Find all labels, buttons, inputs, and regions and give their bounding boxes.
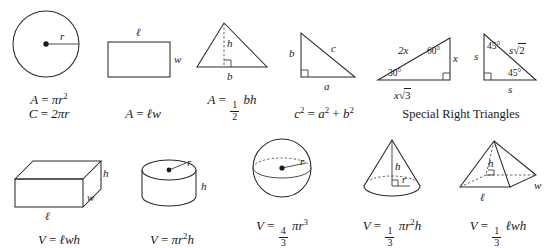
figure-cell-cone: h r V = 13 πr2h <box>338 128 446 248</box>
circle-radius-label: r <box>60 30 65 42</box>
figure-cell-rectangular-prism: h w ℓ V = ℓwh <box>0 128 118 248</box>
cone-fraction-denominator: 3 <box>385 237 394 248</box>
prism-volume-eq: = <box>49 232 56 247</box>
circle-area-eq: = <box>41 92 48 107</box>
prism-volume-formula: V = ℓwh <box>38 233 80 248</box>
rectangle-area-formula: A = ℓw <box>125 107 161 122</box>
pyramid-volume-formula: V = 13 ℓwh <box>470 219 526 248</box>
pyramid-volume-rhs: ℓwh <box>506 218 527 233</box>
sphere-fraction-numerator: 4 <box>279 226 288 236</box>
triangle-height-label: h <box>227 37 233 49</box>
cylinder-volume-lhs: V <box>150 232 158 247</box>
prism-volume-lhs: V <box>38 232 46 247</box>
cylinder-volume-eq: = <box>161 232 168 247</box>
triangle-area-formula: A = 12 bh <box>208 93 257 122</box>
right-triangle-leg-b-label: b <box>289 47 295 59</box>
sphere-diagram: r <box>234 130 330 210</box>
cylinder-volume-rhs: πr <box>172 232 184 247</box>
cylinder-volume-formula: V = πr2h <box>150 232 194 248</box>
triangle-30-60-90-angle-30-label: 30° <box>388 68 402 78</box>
circle-area-exponent: 2 <box>63 91 67 101</box>
prism-volume-rhs: ℓwh <box>59 232 80 247</box>
triangle-fraction-denominator: 2 <box>230 111 239 122</box>
cone-fraction-numerator: 1 <box>385 226 394 236</box>
triangle-30-60-90-base-radicand: 3 <box>404 88 412 101</box>
cone-volume-rhs: πr <box>399 218 411 233</box>
figure-cell-sphere: r V = 43 πr3 <box>226 128 338 248</box>
cone-volume-formula: V = 13 πr2h <box>363 218 421 248</box>
triangle-30-60-90-base-label: x√3 <box>394 89 411 101</box>
geometry-formula-sheet: r A = πr2 C = 2πr ℓ <box>0 0 550 248</box>
sphere-figure: r <box>234 128 330 212</box>
pyramid-height-label: h <box>488 157 494 169</box>
sphere-volume-rhs: πr <box>292 218 304 233</box>
circle-circumference-formula: C = 2πr <box>29 107 70 122</box>
figure-cell-right-triangle: b a c c2 = a2 + b2 <box>276 4 372 122</box>
cone-volume-rhs-tail: h <box>415 218 422 233</box>
triangle-45-45-90-angle-top-label: 45° <box>487 41 501 51</box>
circle-circ-lhs: C <box>29 106 38 121</box>
cylinder-radius-label: r <box>187 156 192 168</box>
triangle-figure: h b <box>189 4 275 85</box>
right-triangle-leg-a-label: a <box>324 80 330 92</box>
sphere-volume-formula: V = 43 πr3 <box>256 218 308 248</box>
pyramid-fraction-denominator: 3 <box>492 237 501 248</box>
figure-cell-triangle: h b A = 12 bh <box>188 4 276 122</box>
pythagorean-term2-exponent: 2 <box>349 105 353 115</box>
cone-diagram: h r <box>344 130 440 210</box>
triangle-45-45-90-hypotenuse-label: s√2 <box>509 44 526 56</box>
cylinder-diagram: r h <box>124 144 220 224</box>
triangle-diagram: h b <box>189 5 275 85</box>
rectangle-diagram: ℓ w <box>100 16 186 96</box>
rectangle-figure: ℓ w <box>100 13 186 99</box>
figure-cell-circle: r A = πr2 C = 2πr <box>0 4 98 122</box>
figure-cell-special-right-triangles: 2x 60° 30° x x√3 s s 45° <box>372 4 550 122</box>
pyramid-volume-eq: = <box>481 218 488 233</box>
pyramid-volume-fraction: 13 <box>492 226 501 248</box>
bottom-row: h w ℓ V = ℓwh r h <box>0 128 550 248</box>
triangle-30-60-90-diagram: 2x 60° 30° x <box>372 18 464 98</box>
triangle-base-label: b <box>227 70 233 82</box>
triangle-45-45-90-leg-vertical-label: s <box>474 50 478 62</box>
right-triangle-hypotenuse-label: c <box>331 42 336 54</box>
triangle-30-60-90-angle-60-label: 60° <box>427 46 441 56</box>
circle-diagram: r <box>6 4 92 84</box>
cylinder-figure: r h <box>124 142 220 226</box>
cylinder-height-label: h <box>201 180 207 192</box>
pythagorean-lhs-exponent: 2 <box>300 105 304 115</box>
triangle-area-rhs: bh <box>243 92 256 107</box>
circle-area-formula: A = πr2 <box>29 92 70 108</box>
circle-area-lhs: A <box>30 92 38 107</box>
pyramid-length-label: ℓ <box>480 191 485 203</box>
triangle-area-fraction: 12 <box>230 100 239 122</box>
figure-cell-rectangle: ℓ w A = ℓw <box>98 4 188 122</box>
circle-figure: r <box>6 4 92 84</box>
pyramid-width-label: w <box>534 179 542 191</box>
sphere-volume-fraction: 43 <box>279 226 288 248</box>
triangle-45-45-90-figure: s s 45° 45° s√2 <box>464 18 550 98</box>
prism-length-label: ℓ <box>45 210 50 222</box>
prism-width-label: w <box>87 191 95 203</box>
figure-cell-cylinder: r h V = πr2h <box>118 128 226 248</box>
pyramid-volume-lhs: V <box>470 218 478 233</box>
triangle-45-45-90-diagram: s s 45° 45° <box>464 18 550 98</box>
top-row: r A = πr2 C = 2πr ℓ <box>0 4 550 122</box>
sphere-volume-exponent: 3 <box>304 217 308 227</box>
pythagorean-formula: c2 = a2 + b2 <box>294 106 354 122</box>
cylinder-volume-rhs-tail: h <box>188 232 195 247</box>
triangle-30-60-90-side-x-label: x <box>452 52 458 64</box>
prism-height-label: h <box>103 167 109 179</box>
sphere-fraction-denominator: 3 <box>279 237 288 248</box>
pythagorean-plus: + <box>332 106 339 121</box>
rectangle-area-lhs: A <box>125 106 133 121</box>
triangle-45-45-90-angle-bottom-label: 45° <box>508 68 522 78</box>
cone-figure: h r <box>344 128 440 212</box>
triangle-45-45-90-leg-horizontal-label: s <box>508 83 512 95</box>
pyramid-fraction-numerator: 1 <box>492 226 501 236</box>
special-triangles-group: 2x 60° 30° x x√3 s s 45° <box>372 12 550 98</box>
sphere-volume-lhs: V <box>256 218 264 233</box>
triangle-area-lhs: A <box>208 92 216 107</box>
cone-radius-label: r <box>402 173 407 185</box>
triangle-area-eq: = <box>219 92 226 107</box>
pyramid-diagram: h w ℓ <box>448 131 548 211</box>
